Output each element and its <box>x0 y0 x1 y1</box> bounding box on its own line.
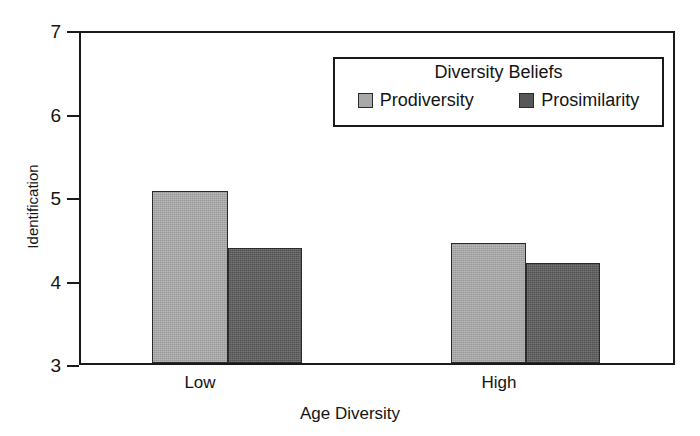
y-tick-label-6: 6 <box>33 106 61 125</box>
legend-swatch-icon-prodiversity <box>358 93 373 108</box>
y-tick-mark-4 <box>67 282 79 284</box>
legend-label-prodiversity: Prodiversity <box>380 90 474 111</box>
x-tick-label-low: Low <box>155 373 245 393</box>
x-axis-title: Age Diversity <box>0 404 700 424</box>
bar-low-prodiversity <box>152 191 228 363</box>
legend-swatch-icon-prosimilarity <box>519 93 534 108</box>
bar-low-prosimilarity <box>228 248 302 364</box>
y-tick-label-3: 3 <box>33 356 61 375</box>
legend-item-prodiversity: Prodiversity <box>358 90 474 111</box>
legend: Diversity Beliefs Prodiversity Prosimila… <box>333 57 664 127</box>
bar-high-prosimilarity <box>526 263 600 363</box>
y-tick-mark-5 <box>67 198 79 200</box>
x-tick-label-high: High <box>454 373 544 393</box>
bar-high-prodiversity <box>451 243 526 363</box>
legend-title: Diversity Beliefs <box>335 62 662 83</box>
legend-label-prosimilarity: Prosimilarity <box>541 90 639 111</box>
y-tick-mark-7 <box>67 31 79 33</box>
legend-item-prosimilarity: Prosimilarity <box>519 90 639 111</box>
y-tick-label-7: 7 <box>33 22 61 41</box>
y-tick-mark-3 <box>67 365 79 367</box>
y-axis-title: Identification <box>24 127 41 287</box>
bar-chart-figure: 7 6 5 4 3 Diversity Beliefs Prodiversity… <box>0 0 700 436</box>
y-tick-mark-6 <box>67 115 79 117</box>
legend-entries: Prodiversity Prosimilarity <box>335 90 662 111</box>
